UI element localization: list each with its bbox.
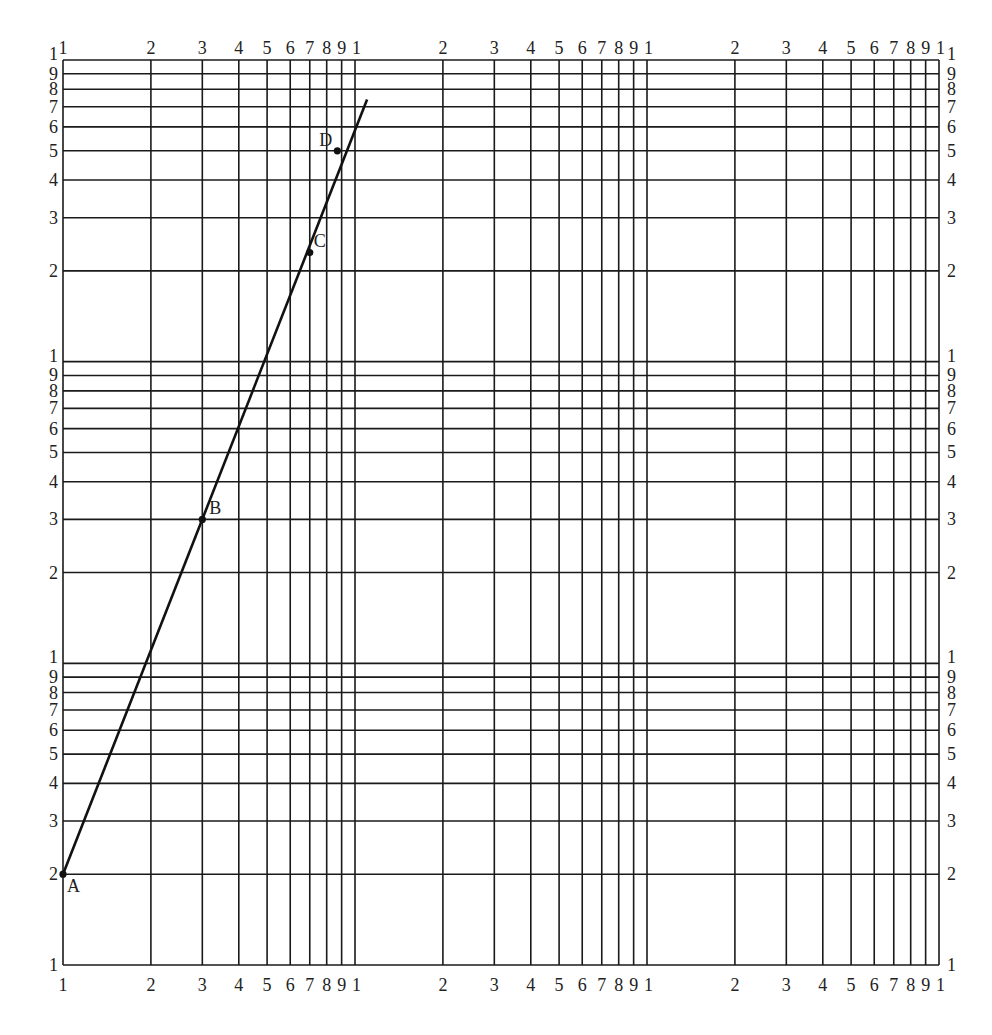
- point-label-d: D: [319, 130, 332, 150]
- x-tick-label: 5: [847, 38, 856, 58]
- y-tick-label: 1: [49, 346, 58, 366]
- x-tick-label: 9: [337, 38, 346, 58]
- x-tick-label: 6: [286, 38, 295, 58]
- y-tick-label: 6: [49, 117, 58, 137]
- x-tick-label: 4: [526, 38, 535, 58]
- bottom-axis-tick-labels: 1234567891234567891234567891: [59, 975, 946, 995]
- y-tick-label: 7: [49, 700, 58, 720]
- x-tick-label: 4: [818, 38, 827, 58]
- y-tick-label: 2: [49, 864, 58, 884]
- top-axis-tick-labels: 1234567891234567891234567891: [59, 38, 946, 58]
- x-tick-label: 7: [597, 975, 606, 995]
- x-tick-label: 3: [198, 38, 207, 58]
- y-tick-label: 9: [49, 667, 58, 687]
- y-tick-label: 6: [49, 419, 58, 439]
- data-point-a: [59, 871, 66, 878]
- x-tick-label: 2: [730, 38, 739, 58]
- y-tick-label: 7: [947, 700, 956, 720]
- x-tick-label: 6: [870, 975, 879, 995]
- y-tick-label: 7: [947, 398, 956, 418]
- point-label-a: A: [67, 876, 80, 896]
- y-tick-label: 2: [947, 563, 956, 583]
- x-tick-label: 9: [629, 975, 638, 995]
- data-point-d: [334, 147, 341, 154]
- y-tick-label: 4: [947, 773, 956, 793]
- y-tick-label: 1: [49, 955, 58, 975]
- x-tick-label: 5: [555, 975, 564, 995]
- x-tick-label: 5: [847, 975, 856, 995]
- x-tick-label: 5: [555, 38, 564, 58]
- y-tick-label: 1: [947, 647, 956, 667]
- y-tick-label: 9: [947, 64, 956, 84]
- x-tick-label: 8: [614, 975, 623, 995]
- x-tick-label: 2: [146, 38, 155, 58]
- y-tick-label: 9: [49, 64, 58, 84]
- x-tick-label: 6: [286, 975, 295, 995]
- x-tick-label: 5: [263, 38, 272, 58]
- y-tick-label: 1: [947, 955, 956, 975]
- x-tick-label: 1: [936, 975, 945, 995]
- x-tick-label: 7: [305, 975, 314, 995]
- x-tick-label: 4: [818, 975, 827, 995]
- y-tick-label: 9: [49, 365, 58, 385]
- y-tick-label: 3: [947, 208, 956, 228]
- x-tick-label: 7: [889, 38, 898, 58]
- x-tick-label: 6: [578, 38, 587, 58]
- y-tick-label: 5: [947, 744, 956, 764]
- y-tick-label: 2: [49, 261, 58, 281]
- data-point-c: [306, 249, 313, 256]
- y-tick-label: 3: [947, 509, 956, 529]
- fitted-line: [63, 99, 367, 874]
- y-tick-label: 3: [49, 509, 58, 529]
- x-tick-label: 3: [782, 38, 791, 58]
- left-axis-tick-labels: 1234567891234567891234567891: [49, 44, 58, 975]
- x-tick-label: 3: [490, 975, 499, 995]
- log-log-graph-paper: 1234567891234567891234567891 12345678912…: [0, 0, 992, 1035]
- y-tick-label: 6: [49, 720, 58, 740]
- y-tick-label: 5: [49, 744, 58, 764]
- x-tick-label: 3: [782, 975, 791, 995]
- x-tick-label: 6: [870, 38, 879, 58]
- x-tick-label: 1: [352, 38, 361, 58]
- point-label-c: C: [314, 231, 326, 251]
- y-tick-label: 4: [49, 170, 58, 190]
- y-tick-label: 6: [947, 117, 956, 137]
- y-tick-label: 5: [49, 442, 58, 462]
- x-tick-label: 9: [337, 975, 346, 995]
- x-tick-label: 4: [234, 38, 243, 58]
- y-tick-label: 9: [947, 667, 956, 687]
- y-tick-label: 7: [947, 97, 956, 117]
- y-tick-label: 5: [947, 141, 956, 161]
- y-tick-label: 5: [947, 442, 956, 462]
- y-tick-label: 4: [49, 472, 58, 492]
- x-tick-label: 9: [921, 975, 930, 995]
- x-tick-label: 5: [263, 975, 272, 995]
- x-tick-label: 6: [578, 975, 587, 995]
- y-tick-label: 2: [947, 864, 956, 884]
- y-tick-label: 9: [947, 365, 956, 385]
- x-tick-label: 7: [305, 38, 314, 58]
- y-tick-label: 3: [49, 208, 58, 228]
- y-tick-label: 7: [49, 97, 58, 117]
- x-tick-label: 8: [322, 975, 331, 995]
- x-tick-label: 1: [936, 38, 945, 58]
- data-point-b: [199, 516, 206, 523]
- point-label-b: B: [209, 498, 221, 518]
- x-tick-label: 1: [644, 38, 653, 58]
- data-points: ABCD: [59, 130, 341, 896]
- y-tick-label: 2: [49, 563, 58, 583]
- x-tick-label: 8: [322, 38, 331, 58]
- y-tick-label: 5: [49, 141, 58, 161]
- y-tick-label: 3: [49, 811, 58, 831]
- x-tick-label: 2: [146, 975, 155, 995]
- x-tick-label: 3: [198, 975, 207, 995]
- y-tick-label: 1: [49, 44, 58, 64]
- x-tick-label: 2: [438, 38, 447, 58]
- x-tick-label: 8: [614, 38, 623, 58]
- y-tick-label: 4: [49, 773, 58, 793]
- y-tick-label: 4: [947, 170, 956, 190]
- x-tick-label: 1: [59, 38, 68, 58]
- y-tick-label: 3: [947, 811, 956, 831]
- x-tick-label: 1: [644, 975, 653, 995]
- x-tick-label: 9: [921, 38, 930, 58]
